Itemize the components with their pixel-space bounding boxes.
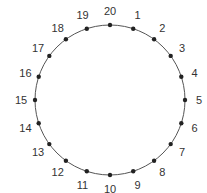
point-dot — [47, 54, 51, 58]
point-label: 5 — [196, 94, 202, 106]
point-dot — [85, 27, 89, 31]
point-dot — [108, 23, 112, 27]
point-dot — [179, 121, 183, 125]
point-label: 17 — [32, 42, 44, 54]
point-dot — [152, 37, 156, 41]
point-dot — [169, 142, 173, 146]
point-label: 1 — [134, 9, 140, 21]
point-label: 2 — [159, 22, 165, 34]
point-label: 15 — [15, 94, 27, 106]
point-label: 8 — [159, 166, 165, 178]
point-label: 12 — [52, 166, 64, 178]
point-dot — [183, 98, 187, 102]
point-label: 4 — [192, 67, 198, 79]
circle-diagram: 1234567891011121314151617181920 — [0, 0, 207, 193]
circle-outline — [35, 25, 185, 175]
point-label: 14 — [19, 122, 31, 134]
point-label: 20 — [104, 5, 116, 17]
point-dot — [179, 75, 183, 79]
point-label: 11 — [77, 179, 88, 191]
point-dot — [152, 159, 156, 163]
point-dot — [108, 173, 112, 177]
points-group: 1234567891011121314151617181920 — [15, 5, 202, 193]
point-dot — [131, 27, 135, 31]
point-dot — [33, 98, 37, 102]
point-label: 13 — [32, 146, 44, 158]
point-label: 18 — [52, 22, 64, 34]
point-label: 19 — [76, 9, 88, 21]
point-label: 16 — [19, 67, 31, 79]
point-dot — [169, 54, 173, 58]
point-dot — [64, 159, 68, 163]
point-dot — [47, 142, 51, 146]
point-label: 9 — [134, 179, 140, 191]
point-label: 10 — [104, 183, 116, 193]
point-dot — [37, 121, 41, 125]
point-dot — [131, 169, 135, 173]
point-label: 7 — [179, 146, 185, 158]
point-dot — [37, 75, 41, 79]
point-label: 6 — [192, 122, 198, 134]
point-dot — [85, 169, 89, 173]
point-label: 3 — [179, 42, 185, 54]
point-dot — [64, 37, 68, 41]
